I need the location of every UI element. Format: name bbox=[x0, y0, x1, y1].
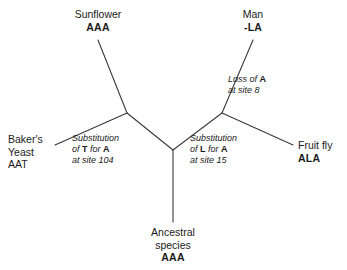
event-left-line2-mid: for bbox=[88, 144, 104, 154]
taxon-name-man: Man bbox=[203, 8, 303, 21]
event-right-residue-old: A bbox=[221, 144, 228, 154]
event-loss-line1-prefix: Loss of bbox=[228, 74, 260, 84]
taxon-name-ancestral-line2: species bbox=[123, 239, 223, 252]
event-left-line2: of T for A bbox=[72, 144, 119, 155]
event-left-residue-old: A bbox=[103, 144, 110, 154]
event-right-line2: of L for A bbox=[190, 144, 237, 155]
event-left-line1: Substitution bbox=[72, 133, 119, 144]
taxon-name-bakers-yeast-line1: Baker's bbox=[8, 133, 68, 146]
taxon-label-man: Man -LA bbox=[203, 8, 303, 33]
taxon-label-bakers-yeast: Baker's Yeast AAT bbox=[8, 133, 68, 171]
taxon-name-bakers-yeast-line2: Yeast bbox=[8, 146, 68, 159]
branch-leftnode-sunflower bbox=[98, 40, 127, 113]
event-right-line1: Substitution bbox=[190, 133, 237, 144]
taxon-sequence-man: -LA bbox=[203, 21, 303, 34]
taxon-name-fruit-fly: Fruit fly bbox=[298, 139, 347, 152]
taxon-label-sunflower: Sunflower AAA bbox=[48, 8, 148, 33]
taxon-label-fruit-fly: Fruit fly ALA bbox=[298, 139, 347, 164]
event-left-line3: at site 104 bbox=[72, 155, 119, 166]
taxon-label-ancestral-species: Ancestral species AAA bbox=[123, 226, 223, 264]
taxon-sequence-bakers-yeast: AAT bbox=[8, 158, 68, 171]
phylogenetic-tree-diagram: Sunflower AAA Man -LA Baker's Yeast AAT … bbox=[0, 0, 347, 270]
event-right-line2-prefix: of bbox=[190, 144, 200, 154]
event-right-line2-mid: for bbox=[206, 144, 222, 154]
event-loss-residue: A bbox=[260, 74, 267, 84]
event-label-substitution-left: Substitution of T for A at site 104 bbox=[72, 133, 119, 166]
event-loss-line2: at site 8 bbox=[228, 85, 266, 96]
event-label-substitution-right: Substitution of L for A at site 15 bbox=[190, 133, 237, 166]
branch-center-leftnode bbox=[127, 113, 173, 150]
event-label-loss: Loss of A at site 8 bbox=[228, 74, 266, 96]
event-left-line2-prefix: of bbox=[72, 144, 82, 154]
event-right-line3: at site 15 bbox=[190, 155, 237, 166]
event-loss-line1: Loss of A bbox=[228, 74, 266, 85]
taxon-sequence-fruit-fly: ALA bbox=[298, 152, 347, 165]
taxon-sequence-ancestral: AAA bbox=[123, 251, 223, 264]
taxon-name-ancestral-line1: Ancestral bbox=[123, 226, 223, 239]
taxon-name-sunflower: Sunflower bbox=[48, 8, 148, 21]
taxon-sequence-sunflower: AAA bbox=[48, 21, 148, 34]
